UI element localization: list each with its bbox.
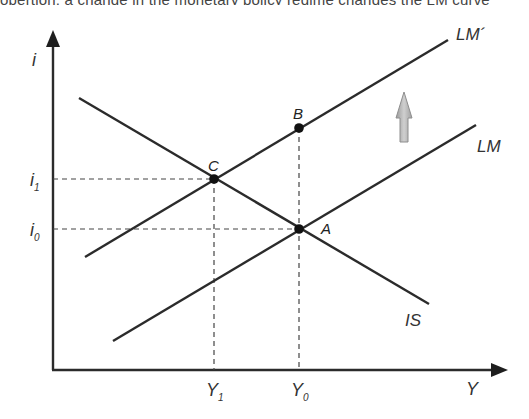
- x-axis: [52, 363, 508, 377]
- guide-lines: [53, 128, 299, 370]
- lm-prime-curve: [85, 40, 448, 257]
- x-axis-label: Y: [466, 379, 480, 399]
- tick-y1: Y1: [206, 380, 224, 403]
- point-b: [294, 123, 304, 133]
- point-b-label: B: [293, 105, 303, 122]
- lm-curve: [113, 125, 476, 341]
- tick-i0: i0: [30, 220, 40, 243]
- point-a-label: A: [320, 220, 331, 237]
- y-axis-arrowhead-icon: [46, 30, 60, 47]
- y-axis: [46, 30, 60, 370]
- point-c-label: C: [208, 157, 219, 174]
- tick-i1: i1: [30, 170, 40, 193]
- is-label: IS: [405, 311, 422, 330]
- is-curve: [79, 98, 429, 304]
- point-c: [209, 174, 219, 184]
- x-axis-arrowhead-icon: [491, 363, 508, 377]
- point-a: [294, 224, 304, 234]
- lm-prime-label: LM´: [456, 25, 486, 44]
- tick-y0: Y0: [291, 380, 309, 403]
- is-lm-diagram: C B A LM´ LM IS i Y i1 i0 Y1 Y0: [0, 0, 529, 419]
- y-axis-label: i: [32, 50, 37, 70]
- lm-label: LM: [477, 137, 501, 156]
- shift-up-arrow-icon: [396, 92, 412, 142]
